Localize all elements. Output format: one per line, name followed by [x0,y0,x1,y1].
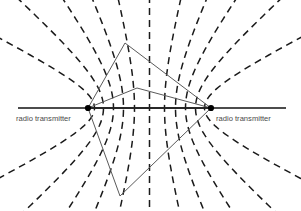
figure-background [0,0,301,211]
hyperbolic-navigation-diagram: radio transmitter radio transmitter [0,0,301,211]
left-transmitter-marker [85,105,91,111]
left-transmitter-label: radio transmitter [16,114,71,123]
right-transmitter-marker [208,105,214,111]
right-transmitter-label: radio transmitter [216,114,271,123]
